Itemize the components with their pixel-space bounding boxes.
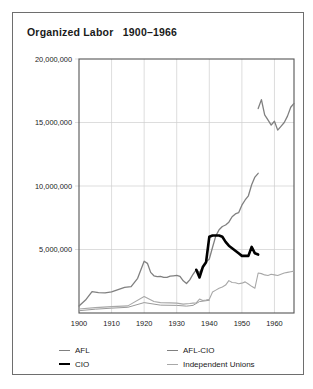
x-tick-label: 1950 xyxy=(234,319,250,328)
series-line-afl xyxy=(79,173,258,306)
legend-item-afl: AFL xyxy=(59,346,167,355)
x-tick-label: 1940 xyxy=(201,319,217,328)
x-tick-label: 1900 xyxy=(71,319,87,328)
y-tick-label: 20,000,000 xyxy=(35,55,72,64)
y-tick-label: 15,000,000 xyxy=(35,118,72,127)
plot-area: 5,000,00010,000,00015,000,00020,000,0001… xyxy=(13,13,305,376)
y-tick-label: 10,000,000 xyxy=(35,182,72,191)
legend-item-independent-unions: Independent Unions xyxy=(167,360,275,369)
legend-label-afl: AFL xyxy=(75,346,90,355)
legend-swatch-afl xyxy=(59,350,70,351)
series-line-afl-cio xyxy=(258,100,294,130)
x-tick-label: 1930 xyxy=(169,319,185,328)
legend-label-cio: CIO xyxy=(75,360,89,369)
legend-label-independent-unions: Independent Unions xyxy=(183,360,255,369)
chart-legend: AFL AFL-CIO CIO Independent Unions xyxy=(59,343,289,371)
x-tick-label: 1910 xyxy=(103,319,119,328)
legend-row: AFL AFL-CIO xyxy=(59,343,289,357)
legend-swatch-cio xyxy=(59,363,70,365)
legend-row: CIO Independent Unions xyxy=(59,357,289,371)
legend-swatch-independent-unions xyxy=(167,364,178,365)
line-chart-svg: 5,000,00010,000,00015,000,00020,000,0001… xyxy=(13,13,305,376)
legend-item-cio: CIO xyxy=(59,360,167,369)
legend-item-afl-cio: AFL-CIO xyxy=(167,346,275,355)
series-line-cio xyxy=(196,236,258,278)
x-tick-label: 1960 xyxy=(266,319,282,328)
chart-figure: Organized Labor 1900–1966 5,000,00010,00… xyxy=(12,12,304,375)
y-tick-label: 5,000,000 xyxy=(39,245,72,254)
legend-swatch-afl-cio xyxy=(167,350,178,351)
x-tick-label: 1920 xyxy=(136,319,152,328)
legend-label-afl-cio: AFL-CIO xyxy=(183,346,215,355)
